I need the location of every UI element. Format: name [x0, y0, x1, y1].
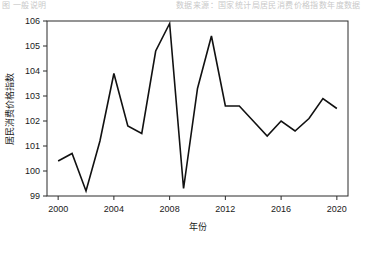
y-tick-label: 104	[25, 66, 40, 76]
x-tick-label: 2008	[160, 204, 180, 214]
series-line-居民消费价格指数	[58, 24, 337, 192]
y-tick-label: 103	[25, 91, 40, 101]
y-tick-label: 100	[25, 166, 40, 176]
x-axis-title: 年份	[189, 221, 207, 232]
y-tick-label: 101	[25, 141, 40, 151]
y-tick-label: 105	[25, 41, 40, 51]
x-tick-label: 2016	[271, 204, 291, 214]
x-tick-label: 2004	[104, 204, 124, 214]
y-tick-label: 102	[25, 116, 40, 126]
chart-figure: 图 一般说明 数据来源：国家统计局居民消费价格指数年度数据 9910010110…	[0, 0, 366, 254]
chart-generated-layer: 9910010110210310410510620002004200820122…	[4, 16, 348, 232]
x-tick-label: 2012	[215, 204, 235, 214]
y-tick-label: 99	[30, 191, 40, 201]
y-axis-title: 居民消费价格指数	[4, 73, 15, 145]
x-tick-label: 2020	[327, 204, 347, 214]
x-tick-label: 2000	[48, 204, 68, 214]
line-chart: 9910010110210310410510620002004200820122…	[0, 0, 366, 254]
y-tick-label: 106	[25, 16, 40, 26]
